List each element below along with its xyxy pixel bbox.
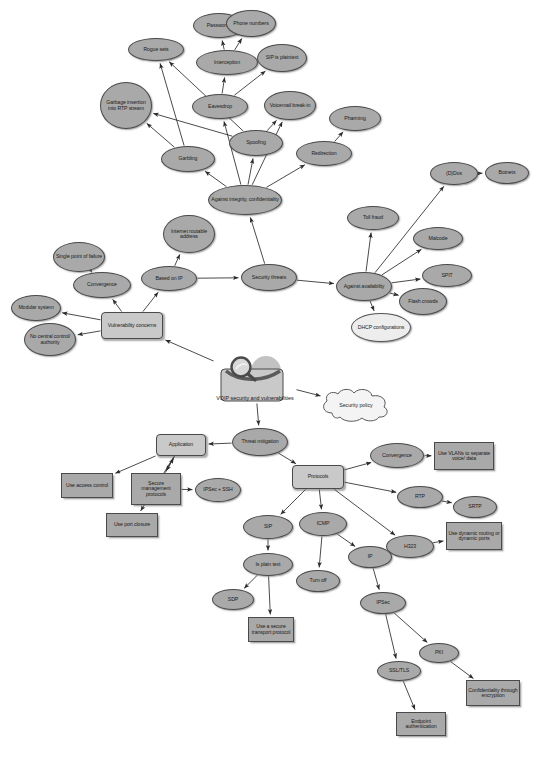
node-against_availability: Against availability [336,272,392,301]
node-label: SPIT [441,273,452,278]
node-label: ICMP [317,521,330,526]
node-label: SRTP [468,504,481,509]
node-confidentiality_enc: Confidentiality through encryption [466,680,520,706]
edge-redirection-to-pharming [335,132,344,142]
edge-vulnerability_concerns-to-modular_system [62,313,100,320]
edge-h323-to-use_dynamic_routing [433,541,443,543]
node-label: Threat mitigation [242,439,279,444]
node-label: Phone numbers [233,21,268,26]
node-security_policy: Security policy [318,388,394,422]
node-label: Toll fraud [363,215,383,220]
node-label: Interception [214,60,240,65]
edge-security_threats-to-against_availability [297,280,334,283]
edge-rtp-to-srtp [442,501,452,503]
edge-application-to-use_access_control [115,456,155,473]
edge-ipsec-to-ssl_tls [386,614,396,658]
edge-threat_mitigation-to-protocols [278,453,296,464]
edge-interception-to-phone_numbers [235,39,242,50]
node-modular_system: Modular system [11,295,61,321]
node-redirection: Redirection [296,141,352,166]
node-voip_center: VOIP security and vulnerabilities [214,355,296,403]
node-ssl_tls: SSL/TLS [377,661,421,681]
node-ddos: (D)Dos [430,162,478,185]
node-ipsec_ssh: IPSec + SSH [195,478,241,502]
node-label: Use a secure transport protocol [250,624,292,635]
node-botnets: Botnets [485,162,529,184]
node-label: Garbage insertion into RTP stream [102,100,150,111]
node-ipsec: IPSec [360,592,406,614]
node-label: Pharming [344,116,365,121]
node-label: Botnets [499,170,516,175]
node-no_central_control: No central control/ authority [24,323,76,356]
node-sip_is_plaintext: SIP is plaintext [257,44,307,72]
node-label: Internet routable address [165,229,213,240]
node-label: Security threats [252,275,286,280]
node-label: Use access control [66,483,108,488]
edge-voip_center-to-security_policy [297,390,321,396]
node-label: Against availability [344,284,385,289]
node-label: Confidentiality through encryption [468,688,518,699]
edge-against_integrity-to-redirection [266,165,304,188]
edge-against_availability-to-dhcp_configurations [370,301,374,311]
node-pharming: Pharming [329,106,381,131]
node-based_on_ip: Based on IP [141,266,197,291]
node-sip: SIP [243,515,293,539]
node-use_port_closure: Use port closure [106,513,158,537]
node-use_secure_transport: Use a secure transport protocol [248,617,294,642]
node-label: VOIP security and vulnerabilities [214,395,296,401]
node-srtp: SRTP [453,496,497,518]
node-label: Spoofing [246,140,266,145]
edge-garbling-to-garbage_insertion [147,123,175,147]
node-against_integrity: Against integrity, confidentiality [208,185,282,215]
node-use_vlans: Use VLANs to separate voice/ data [434,442,494,470]
edge-is_plain_text-to-sdp [244,575,257,588]
node-label: Convergence [87,282,117,287]
node-threat_mitigation: Threat mitigation [232,428,288,456]
edge-secure_mgmt_protocols-to-application [165,458,173,472]
node-label: Flash crowds [408,299,437,304]
node-label: Against integrity, confidentiality [211,197,278,202]
node-label: (D)Dos [446,171,462,176]
edge-ipsec-to-pki [394,613,427,643]
edge-ssl_tls-to-endpoint_auth [403,681,415,709]
node-garbage_insertion: Garbage insertion into RTP stream [100,82,152,129]
edge-spoofing-to-voicemail_breakin [267,120,276,130]
node-turn_off: Turn off [296,570,340,592]
edge-vulnerability_concerns-to-convergence_vuln [113,299,122,311]
node-label: Eavesdrop [208,104,232,109]
node-convergence_proto: Convergence [370,443,424,468]
node-label: IPSec + SSH [203,487,232,492]
edge-garbling-to-rogue_sets [160,63,184,145]
node-secure_mgmt_protocols: Secure management protocols [131,473,181,505]
edge-eavesdrop-to-sip_is_plaintext [234,71,265,95]
edge-voip_center-to-threat_mitigation [257,404,259,426]
node-h323: H323 [386,535,434,558]
node-label: Based on IP [155,276,182,281]
edge-based_on_ip-to-internet_routable [175,254,180,265]
node-ip: IP [348,546,392,568]
node-garbling: Garbling [161,146,215,172]
diagram-canvas: Rogue setsPasswordsPhone numbersIntercep… [0,0,533,758]
node-label: Secure management protocols [133,481,179,497]
node-interception: Interception [196,50,258,75]
node-label: Protocols [308,474,329,479]
node-label: IP [368,554,373,559]
node-label: IPSec [376,600,389,605]
node-sdp: SDP [212,589,254,610]
node-label: Security policy [318,388,394,422]
edge-pki-to-confidentiality_enc [451,662,474,679]
edge-threat_mitigation-to-application [209,443,232,444]
edge-protocols-to-icmp [319,490,321,510]
edge-icmp-to-turn_off [319,537,322,568]
edge-vulnerability_concerns-to-based_on_ip [143,292,158,311]
node-label: Application [169,442,193,447]
node-application: Application [156,434,206,456]
node-use_access_control: Use access control [61,473,113,498]
node-label: RTP [415,494,425,499]
node-label: Malcode [429,236,448,241]
node-internet_routable: Internet routable address [163,215,215,253]
node-label: Modular system [18,305,53,310]
node-spoofing: Spoofing [229,130,283,156]
node-label: Is plain text [256,562,281,567]
node-label: Rogue sets [143,47,168,52]
